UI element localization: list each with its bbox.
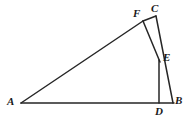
segment-fc xyxy=(143,16,156,21)
vertex-label-d: D xyxy=(155,106,163,117)
segment-af xyxy=(21,21,143,103)
vertex-label-a: A xyxy=(7,96,14,107)
vertex-label-e: E xyxy=(163,52,170,63)
vertex-label-f: F xyxy=(133,8,140,19)
vertex-label-c: C xyxy=(151,3,158,14)
geometry-figure: F C E A D B xyxy=(0,0,190,123)
vertex-label-b: B xyxy=(175,95,182,106)
